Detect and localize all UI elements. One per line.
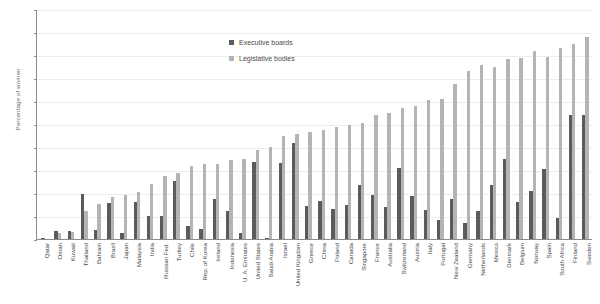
bar-group xyxy=(579,10,592,239)
legend-item-executive-boards: Executive boards xyxy=(229,39,295,46)
x-axis-category-label: Poland xyxy=(334,243,340,262)
x-axis-category-label: Spain xyxy=(546,243,552,259)
bar xyxy=(572,44,575,240)
bar xyxy=(163,176,166,239)
bar xyxy=(440,99,443,239)
bar xyxy=(269,147,272,239)
bar xyxy=(322,130,325,239)
bar-group xyxy=(420,10,433,239)
bar-group xyxy=(91,10,104,239)
bar xyxy=(242,159,245,240)
x-axis-category: U. A. Emirates xyxy=(235,243,248,303)
bar xyxy=(519,58,522,239)
bar-group xyxy=(144,10,157,239)
bar xyxy=(176,173,179,239)
bar xyxy=(427,100,430,239)
x-axis-category-label: Ireland xyxy=(215,243,221,262)
x-axis-category-label: Thailand xyxy=(83,243,89,266)
x-axis-category-label: South Africa xyxy=(559,243,565,276)
x-axis-category-label: Bahrain xyxy=(96,243,102,264)
x-axis-category-label: Saudi Arabia xyxy=(268,243,274,278)
bar-group xyxy=(447,10,460,239)
x-axis-category: Netherlands xyxy=(473,243,486,303)
x-axis-category-label: Israel xyxy=(282,243,288,258)
bar xyxy=(282,136,285,240)
bar-group xyxy=(513,10,526,239)
x-axis-category-label: Norway xyxy=(533,243,539,264)
x-axis-category: Germany xyxy=(460,243,473,303)
bar-group xyxy=(368,10,381,239)
x-axis-category-label: Turkey xyxy=(176,243,182,261)
x-axis-category: Turkey xyxy=(169,243,182,303)
x-axis-category: South Africa xyxy=(553,243,566,303)
y-axis-tickmark xyxy=(34,240,37,241)
x-axis-category: Denmark xyxy=(500,243,513,303)
legend-label: Executive boards xyxy=(239,39,293,46)
bar-group xyxy=(473,10,486,239)
x-axis-category: Poland xyxy=(328,243,341,303)
bar xyxy=(190,166,193,239)
bar xyxy=(203,164,206,239)
x-axis-category-label: United States xyxy=(255,243,261,280)
x-axis-category: Italy xyxy=(420,243,433,303)
bar-group xyxy=(104,10,117,239)
bar xyxy=(361,123,364,239)
bar xyxy=(84,211,87,239)
legend-label: Legislative bodies xyxy=(239,55,295,62)
x-axis-category: Portugal xyxy=(434,243,447,303)
bar xyxy=(137,192,140,239)
x-axis-category: Ireland xyxy=(209,243,222,303)
bar-series-group xyxy=(37,10,592,239)
bar xyxy=(58,233,61,239)
bar-group xyxy=(196,10,209,239)
x-axis-category-label: Finland xyxy=(572,243,578,263)
bar-group xyxy=(117,10,130,239)
x-axis-category-label: Singapore xyxy=(361,243,367,271)
bar xyxy=(374,115,377,239)
x-axis-category-label: Belgium xyxy=(519,243,525,265)
bar xyxy=(150,184,153,239)
bar-group xyxy=(328,10,341,239)
x-axis-category: Oman xyxy=(50,243,63,303)
bar xyxy=(467,71,470,239)
bar xyxy=(559,48,562,239)
bar xyxy=(256,150,259,239)
bar xyxy=(387,113,390,239)
x-axis-category-label: Germany xyxy=(467,243,473,268)
bar-group xyxy=(500,10,513,239)
bar xyxy=(493,67,496,239)
x-axis-category-label: Brazil xyxy=(110,243,116,258)
x-axis-category: France xyxy=(367,243,380,303)
x-axis-category: Austria xyxy=(407,243,420,303)
x-axis-category-label: Greece xyxy=(308,243,314,263)
x-axis-category: Belgium xyxy=(513,243,526,303)
x-axis-category: Australia xyxy=(381,243,394,303)
x-axis-category: Japan xyxy=(116,243,129,303)
bar xyxy=(308,132,311,239)
x-axis-category: Brazil xyxy=(103,243,116,303)
x-axis-category: New Zealand xyxy=(447,243,460,303)
x-axis-category: Rep. of Korea xyxy=(196,243,209,303)
x-axis-category: Mexico xyxy=(486,243,499,303)
x-axis-category-label: Netherlands xyxy=(480,243,486,276)
x-axis-category-label: Japan xyxy=(123,243,129,260)
bar xyxy=(97,204,100,239)
bar xyxy=(295,134,298,239)
y-axis-title: Percentage of women xyxy=(14,45,21,155)
x-axis-category: Bahrain xyxy=(90,243,103,303)
bar xyxy=(335,127,338,239)
x-axis-category-label: New Zealand xyxy=(453,243,459,279)
plot-area xyxy=(36,10,592,240)
x-axis-category: Singapore xyxy=(354,243,367,303)
bar xyxy=(546,57,549,239)
x-axis-category-labels: QatarOmanKuwaitThailandBahrainBrazilJapa… xyxy=(36,243,592,303)
x-axis-category: China xyxy=(315,243,328,303)
x-axis-category: Norway xyxy=(526,243,539,303)
bar-group xyxy=(552,10,565,239)
x-axis-category: India xyxy=(143,243,156,303)
x-axis-category-label: Switzerland xyxy=(401,243,407,275)
chart-container: Percentage of women 05101520253035404550… xyxy=(0,0,600,304)
x-axis-category-label: China xyxy=(321,243,327,259)
x-axis-category: Canada xyxy=(341,243,354,303)
x-axis-category: Thailand xyxy=(77,243,90,303)
